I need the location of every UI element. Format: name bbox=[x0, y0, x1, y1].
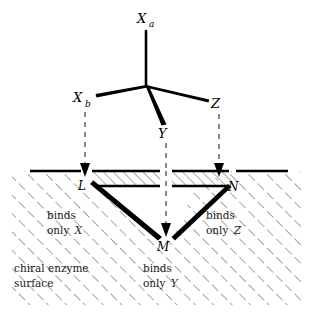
caption-M-line1: binds bbox=[143, 262, 172, 274]
label-Xb: X b bbox=[72, 90, 91, 109]
arrow-Xb-to-L bbox=[80, 112, 90, 177]
caption-L-line2-symbol: X bbox=[74, 224, 83, 236]
caption-M-line2-symbol: Y bbox=[171, 277, 179, 289]
label-Z: Z bbox=[210, 96, 221, 111]
caption-N-line2: only Z bbox=[206, 224, 242, 236]
label-Xa-subscript: a bbox=[149, 19, 154, 29]
caption-N-line1: binds bbox=[206, 209, 235, 221]
site-label-M: M bbox=[156, 240, 170, 254]
caption-N-line2-prefix: only bbox=[206, 224, 232, 236]
figure-canvas: X a X b Y Z bbox=[0, 0, 315, 315]
label-Xa-base: X bbox=[136, 11, 147, 26]
caption-L-line2-prefix: only bbox=[47, 224, 73, 236]
arrow-Y-to-M bbox=[161, 143, 171, 237]
bond-to-Xb bbox=[96, 85, 148, 98]
label-Xa: X a bbox=[136, 11, 154, 29]
site-label-L: L bbox=[77, 179, 86, 193]
label-Xb-base: X bbox=[72, 90, 83, 105]
caption-N-line2-symbol: Z bbox=[233, 224, 242, 236]
shelf-hatching-right bbox=[172, 171, 232, 186]
molecule-group: X a X b Y Z bbox=[72, 11, 221, 141]
shelf-hatching-left bbox=[92, 171, 160, 186]
caption-M-line2: only Y bbox=[143, 277, 179, 289]
surface-caption-line1: chiral enzyme bbox=[14, 262, 89, 274]
surface-caption-line2: surface bbox=[14, 277, 53, 289]
chirality-enzyme-surface-figure: X a X b Y Z bbox=[0, 0, 315, 315]
label-Y: Y bbox=[158, 126, 168, 141]
caption-L-line1: binds bbox=[47, 209, 76, 221]
label-Xb-subscript: b bbox=[85, 99, 91, 109]
caption-L-line2: only X bbox=[47, 224, 83, 236]
site-label-N: N bbox=[227, 180, 239, 194]
arrow-Z-to-N bbox=[214, 114, 224, 177]
caption-M-line2-prefix: only bbox=[143, 277, 169, 289]
